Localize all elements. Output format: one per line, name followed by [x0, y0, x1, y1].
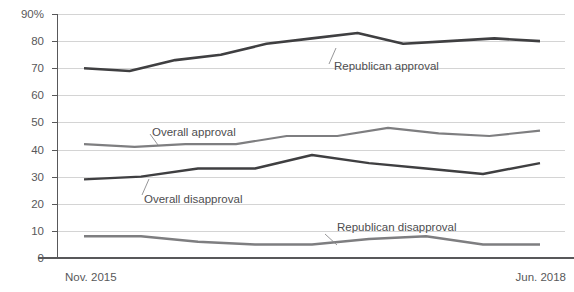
series-line-republican-approval [84, 33, 540, 71]
label-republican-approval: Republican approval [334, 60, 439, 72]
label-overall-approval: Overall approval [152, 126, 236, 138]
y-tick-label-90: 90% [21, 8, 44, 20]
label-overall-disapproval: Overall disapproval [144, 193, 242, 205]
series-line-republican-disapproval [84, 236, 540, 244]
x-tick-label-end: Jun. 2018 [515, 271, 566, 283]
y-tick-label-40: 40 [31, 144, 44, 156]
y-tick-label-70: 70 [31, 62, 44, 74]
x-tick-label-start: Nov. 2015 [65, 271, 117, 283]
y-tick-label-30: 30 [31, 171, 44, 183]
chart-canvas: 90% 80 70 60 50 40 30 20 10 0 Nov. 2015 … [0, 0, 574, 292]
y-tick-label-60: 60 [31, 89, 44, 101]
y-axis-tick-labels: 90% 80 70 60 50 40 30 20 10 0 [21, 8, 44, 264]
x-axis-tick-labels: Nov. 2015 Jun. 2018 [65, 271, 566, 283]
y-tick-label-20: 20 [31, 198, 44, 210]
line-chart: 90% 80 70 60 50 40 30 20 10 0 Nov. 2015 … [0, 0, 574, 292]
series-line-overall-disapproval [84, 155, 540, 179]
label-republican-disapproval: Republican disapproval [337, 221, 457, 233]
y-tick-label-10: 10 [31, 225, 44, 237]
series-lines [84, 33, 540, 244]
y-tick-label-0: 0 [38, 252, 44, 264]
annotation-leaders [142, 48, 337, 245]
y-tick-label-80: 80 [31, 35, 44, 47]
annotation-labels: Republican approval Overall approval Ove… [144, 60, 457, 233]
gridlines [57, 14, 565, 231]
y-tick-label-50: 50 [31, 116, 44, 128]
